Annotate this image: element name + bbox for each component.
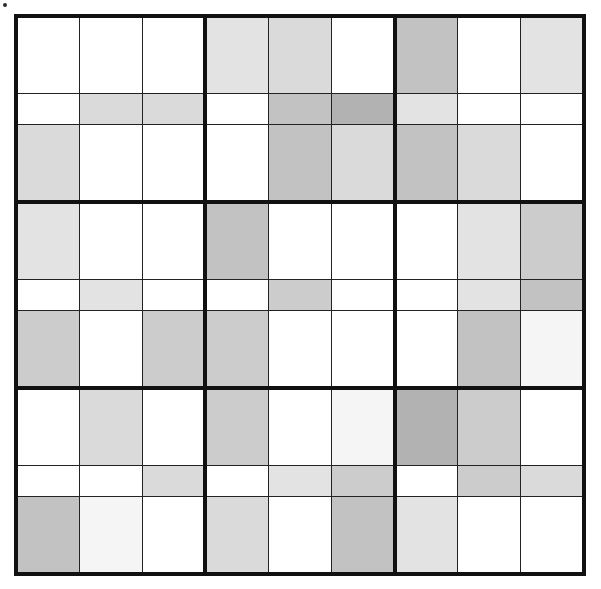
grid-cell-r3-c4[interactable]	[205, 125, 268, 203]
grid-cell-r8-c8[interactable]	[458, 466, 521, 497]
grid-cell-r9-c7[interactable]	[395, 497, 458, 575]
grid-cell-r5-c5[interactable]	[268, 280, 331, 311]
grid-cell-r2-c1[interactable]	[16, 94, 79, 125]
grid-cell-r1-c2[interactable]	[79, 16, 142, 94]
grid-cell-r2-c5[interactable]	[268, 94, 331, 125]
grid-cell-r3-c9[interactable]	[521, 125, 584, 203]
grid-cell-r9-c6[interactable]	[332, 497, 395, 575]
grid-row	[16, 466, 584, 497]
grid-cell-r8-c7[interactable]	[395, 466, 458, 497]
grid-cell-r9-c4[interactable]	[205, 497, 268, 575]
grid-cell-r2-c4[interactable]	[205, 94, 268, 125]
grid-cell-r7-c2[interactable]	[79, 388, 142, 466]
grid-cell-r6-c5[interactable]	[268, 311, 331, 389]
grid-cell-r7-c7[interactable]	[395, 388, 458, 466]
grid-cell-r6-c6[interactable]	[332, 311, 395, 389]
grid-row	[16, 497, 584, 575]
grid-cell-r5-c7[interactable]	[395, 280, 458, 311]
grid-cell-r1-c8[interactable]	[458, 16, 521, 94]
grid-cell-r7-c3[interactable]	[142, 388, 205, 466]
grid-cell-r5-c1[interactable]	[16, 280, 79, 311]
grid-cell-r4-c3[interactable]	[142, 202, 205, 280]
grid-cell-r6-c7[interactable]	[395, 311, 458, 389]
grid-cell-r2-c7[interactable]	[395, 94, 458, 125]
grid-cell-r8-c3[interactable]	[142, 466, 205, 497]
grid-cell-r5-c9[interactable]	[521, 280, 584, 311]
grid-row	[16, 125, 584, 203]
grid-cell-r4-c1[interactable]	[16, 202, 79, 280]
grid-cell-r7-c5[interactable]	[268, 388, 331, 466]
grid-row	[16, 388, 584, 466]
grid-row	[16, 280, 584, 311]
grid-container	[14, 14, 586, 576]
grid-row	[16, 311, 584, 389]
grid-cell-r4-c5[interactable]	[268, 202, 331, 280]
image-speck-artifact	[3, 3, 7, 7]
grid-cell-r8-c2[interactable]	[79, 466, 142, 497]
grid-cell-r7-c9[interactable]	[521, 388, 584, 466]
grid-cell-r3-c2[interactable]	[79, 125, 142, 203]
grid-cell-r5-c4[interactable]	[205, 280, 268, 311]
grid-cell-r3-c5[interactable]	[268, 125, 331, 203]
sudoku-style-grid	[14, 14, 586, 576]
grid-cell-r9-c2[interactable]	[79, 497, 142, 575]
grid-cell-r1-c4[interactable]	[205, 16, 268, 94]
grid-cell-r9-c1[interactable]	[16, 497, 79, 575]
grid-cell-r4-c6[interactable]	[332, 202, 395, 280]
grid-cell-r3-c8[interactable]	[458, 125, 521, 203]
grid-cell-r9-c5[interactable]	[268, 497, 331, 575]
grid-cell-r3-c6[interactable]	[332, 125, 395, 203]
grid-cell-r1-c1[interactable]	[16, 16, 79, 94]
grid-cell-r2-c3[interactable]	[142, 94, 205, 125]
grid-cell-r2-c8[interactable]	[458, 94, 521, 125]
grid-cell-r4-c9[interactable]	[521, 202, 584, 280]
grid-cell-r7-c6[interactable]	[332, 388, 395, 466]
grid-cell-r7-c4[interactable]	[205, 388, 268, 466]
grid-cell-r6-c9[interactable]	[521, 311, 584, 389]
grid-cell-r4-c8[interactable]	[458, 202, 521, 280]
grid-cell-r6-c3[interactable]	[142, 311, 205, 389]
grid-cell-r4-c4[interactable]	[205, 202, 268, 280]
grid-cell-r1-c3[interactable]	[142, 16, 205, 94]
grid-cell-r1-c9[interactable]	[521, 16, 584, 94]
grid-cell-r8-c6[interactable]	[332, 466, 395, 497]
grid-cell-r4-c2[interactable]	[79, 202, 142, 280]
grid-cell-r8-c5[interactable]	[268, 466, 331, 497]
grid-cell-r7-c8[interactable]	[458, 388, 521, 466]
grid-cell-r8-c9[interactable]	[521, 466, 584, 497]
grid-cell-r6-c2[interactable]	[79, 311, 142, 389]
grid-cell-r2-c2[interactable]	[79, 94, 142, 125]
grid-cell-r8-c4[interactable]	[205, 466, 268, 497]
grid-cell-r3-c1[interactable]	[16, 125, 79, 203]
grid-cell-r4-c7[interactable]	[395, 202, 458, 280]
grid-cell-r5-c6[interactable]	[332, 280, 395, 311]
grid-cell-r2-c6[interactable]	[332, 94, 395, 125]
grid-cell-r5-c3[interactable]	[142, 280, 205, 311]
grid-cell-r8-c1[interactable]	[16, 466, 79, 497]
grid-cell-r6-c4[interactable]	[205, 311, 268, 389]
grid-body	[16, 16, 584, 574]
grid-row	[16, 16, 584, 94]
grid-cell-r2-c9[interactable]	[521, 94, 584, 125]
grid-cell-r9-c8[interactable]	[458, 497, 521, 575]
grid-cell-r6-c1[interactable]	[16, 311, 79, 389]
grid-row	[16, 202, 584, 280]
grid-row	[16, 94, 584, 125]
grid-cell-r3-c7[interactable]	[395, 125, 458, 203]
grid-cell-r5-c2[interactable]	[79, 280, 142, 311]
grid-cell-r9-c3[interactable]	[142, 497, 205, 575]
grid-cell-r3-c3[interactable]	[142, 125, 205, 203]
grid-cell-r1-c7[interactable]	[395, 16, 458, 94]
grid-cell-r1-c5[interactable]	[268, 16, 331, 94]
grid-cell-r9-c9[interactable]	[521, 497, 584, 575]
grid-cell-r5-c8[interactable]	[458, 280, 521, 311]
grid-cell-r1-c6[interactable]	[332, 16, 395, 94]
grid-cell-r7-c1[interactable]	[16, 388, 79, 466]
grid-cell-r6-c8[interactable]	[458, 311, 521, 389]
